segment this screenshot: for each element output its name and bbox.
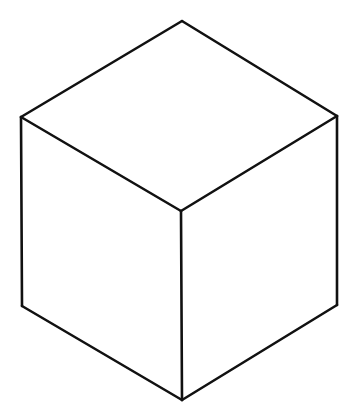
edge-upper-left-to-lower-left: [21, 117, 22, 306]
cube-figure: [0, 0, 358, 416]
edge-center-to-bottom-apex: [181, 211, 182, 400]
